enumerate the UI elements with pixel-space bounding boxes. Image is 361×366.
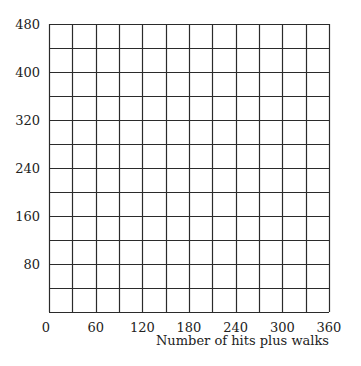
y-tick-label: 320	[15, 113, 40, 128]
blank-grid-chart: 80160240320400480 060120180240300360 Num…	[0, 0, 361, 366]
y-tick-label: 160	[15, 209, 40, 224]
x-tick-label: 0	[42, 320, 50, 335]
y-tick-label: 480	[15, 17, 40, 32]
y-tick-label: 80	[23, 257, 40, 272]
y-tick-label: 240	[15, 161, 40, 176]
x-tick-label: 120	[130, 320, 155, 335]
x-tick-label: 60	[87, 320, 104, 335]
grid-lines	[49, 24, 330, 313]
y-axis-tick-labels: 80160240320400480	[15, 17, 40, 272]
x-axis-label: Number of hits plus walks	[156, 333, 329, 348]
y-tick-label: 400	[15, 65, 40, 80]
